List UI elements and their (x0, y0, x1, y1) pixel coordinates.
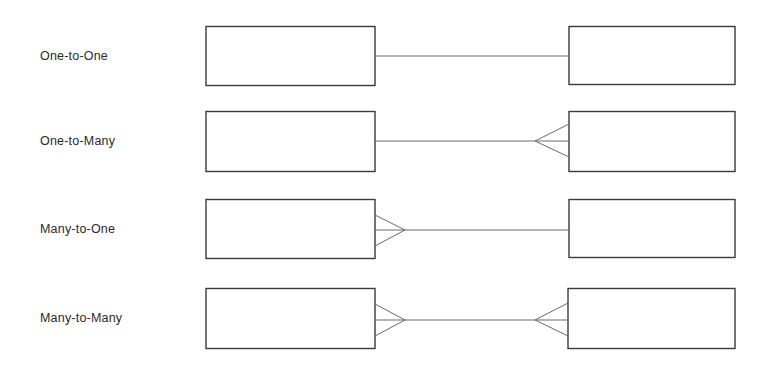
entity-box-left-row-3 (206, 200, 375, 259)
entity-box-right-row-3 (569, 200, 735, 258)
entity-box-left-row-4 (206, 289, 375, 349)
entity-box-left-row-2 (206, 112, 375, 172)
entity-box-right-row-2 (569, 112, 735, 172)
entity-box-left-row-1 (206, 27, 375, 86)
cardinality-diagram: One-to-One One-to-Many Many-to-One Many-… (0, 0, 779, 368)
entity-box-right-row-4 (568, 289, 735, 349)
relationship-graphics (0, 0, 779, 368)
entity-box-right-row-1 (569, 27, 735, 85)
